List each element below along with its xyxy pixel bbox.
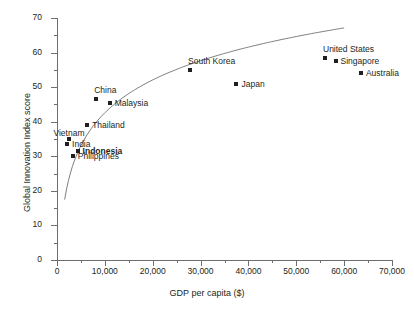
y-tick-label: 60: [16, 48, 42, 57]
data-point-label: Australia: [366, 69, 399, 78]
y-tick-minor: [54, 70, 57, 71]
data-point-marker: [188, 68, 192, 72]
y-tick-major: [51, 225, 57, 226]
y-axis-title: Global Innovation Index score: [22, 93, 32, 212]
data-point-marker: [71, 154, 75, 158]
data-point-marker: [108, 101, 112, 105]
y-tick-major: [51, 18, 57, 19]
data-point-marker: [94, 97, 98, 101]
x-tick-minor: [320, 260, 321, 263]
y-tick-label: 10: [16, 220, 42, 229]
y-tick-minor: [54, 243, 57, 244]
y-tick-minor: [54, 174, 57, 175]
data-point-marker: [65, 142, 69, 146]
y-tick-minor: [54, 35, 57, 36]
data-point-marker: [334, 59, 338, 63]
scatter-chart: 010203040506070010,00020,00030,00040,000…: [0, 0, 414, 314]
y-axis-line: [57, 18, 58, 260]
data-point-label: Vietnam: [53, 129, 84, 138]
y-tick-minor: [54, 208, 57, 209]
y-tick-label: 50: [16, 82, 42, 91]
data-point-marker: [76, 149, 80, 153]
y-tick-major: [51, 53, 57, 54]
data-point-label: Japan: [241, 80, 264, 89]
x-tick-label: 70,000: [362, 267, 414, 276]
y-tick-major: [51, 87, 57, 88]
data-point-marker: [85, 123, 89, 127]
y-tick-major: [51, 122, 57, 123]
data-point-label: Thailand: [92, 121, 125, 130]
x-tick-minor: [368, 260, 369, 263]
y-tick-label: 70: [16, 13, 42, 22]
x-tick-minor: [177, 260, 178, 263]
y-tick-minor: [54, 139, 57, 140]
data-point-marker: [323, 56, 327, 60]
data-point-label: Indonesia: [83, 147, 123, 156]
x-axis-title: GDP per capita ($): [0, 288, 414, 298]
data-point-label: China: [94, 86, 116, 95]
data-point-marker: [234, 82, 238, 86]
data-point-marker: [359, 71, 363, 75]
y-tick-major: [51, 156, 57, 157]
data-point-label: United States: [323, 45, 374, 54]
data-point-label: Malaysia: [115, 99, 149, 108]
x-tick-minor: [272, 260, 273, 263]
x-tick-minor: [81, 260, 82, 263]
x-tick-minor: [129, 260, 130, 263]
y-tick-major: [51, 191, 57, 192]
data-point-label: Singapore: [341, 57, 380, 66]
y-tick-label: 0: [16, 255, 42, 264]
data-point-label: South Korea: [188, 57, 235, 66]
x-tick-minor: [225, 260, 226, 263]
y-tick-minor: [54, 104, 57, 105]
